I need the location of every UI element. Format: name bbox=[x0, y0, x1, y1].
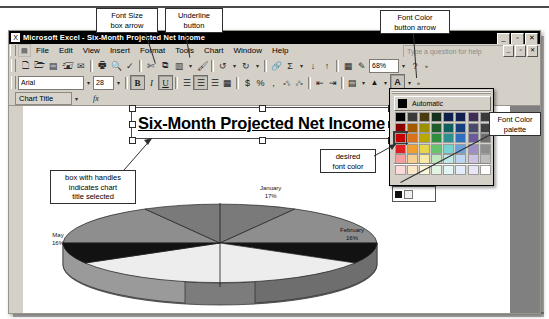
palette-color-cell[interactable] bbox=[419, 123, 430, 133]
palette-color-cell[interactable] bbox=[395, 165, 406, 175]
standard-toolbar-grip[interactable] bbox=[11, 59, 16, 72]
palette-color-cell[interactable] bbox=[431, 133, 442, 143]
name-box[interactable]: Chart Title bbox=[15, 92, 72, 105]
autosum-dropdown-icon[interactable]: ▾ bbox=[297, 60, 306, 72]
paste-icon[interactable]: ▥ bbox=[172, 59, 186, 73]
bold-button[interactable]: B bbox=[130, 75, 145, 90]
decrease-indent-button[interactable]: ⇤ bbox=[313, 76, 326, 89]
chart-legend[interactable] bbox=[392, 186, 436, 202]
doc-minimize-button[interactable]: _ bbox=[503, 45, 514, 57]
spelling-icon[interactable]: ✓ bbox=[123, 59, 137, 73]
redo-dropdown-icon[interactable]: ▾ bbox=[253, 60, 262, 72]
restore-button[interactable]: ▫ bbox=[511, 33, 524, 45]
save-icon[interactable]: ▤ bbox=[46, 59, 60, 73]
menu-item-file[interactable]: File bbox=[31, 46, 54, 55]
doc-close-button[interactable]: ✕ bbox=[527, 45, 538, 57]
increase-indent-button[interactable]: ⇥ bbox=[326, 76, 339, 89]
zoom-dropdown-icon[interactable]: ▾ bbox=[399, 60, 408, 72]
currency-button[interactable]: $ bbox=[241, 76, 254, 89]
paste-options-dropdown-icon[interactable]: ▾ bbox=[186, 60, 195, 72]
open-icon[interactable]: 🗁 bbox=[32, 59, 46, 73]
redo-icon[interactable]: ↻ bbox=[239, 59, 253, 73]
font-size-combobox[interactable]: 28 bbox=[93, 76, 114, 90]
sort-descending-icon[interactable]: ↑ bbox=[320, 59, 334, 73]
palette-color-cell[interactable] bbox=[419, 144, 430, 154]
permission-icon[interactable]: 🖅 bbox=[60, 59, 74, 73]
zoom-combobox[interactable]: 68% bbox=[369, 59, 399, 73]
font-color-palette[interactable]: Automatic Red bbox=[389, 88, 494, 186]
palette-color-cell[interactable] bbox=[480, 165, 491, 175]
align-right-button[interactable]: ☰ bbox=[208, 76, 221, 89]
resize-handle-n[interactable] bbox=[259, 105, 266, 112]
fill-color-button[interactable]: ▲ bbox=[368, 76, 381, 89]
formatting-toolbar-grip[interactable] bbox=[11, 76, 16, 89]
close-button[interactable]: ✕ bbox=[525, 33, 538, 45]
percent-button[interactable]: % bbox=[254, 76, 267, 89]
chart-title-selection-box[interactable]: Six-Month Projected Net Income bbox=[131, 107, 392, 139]
print-preview-icon[interactable]: 🔍 bbox=[109, 59, 123, 73]
copy-icon[interactable]: ⧉ bbox=[158, 59, 172, 73]
hyperlink-icon[interactable]: 🔗 bbox=[269, 59, 283, 73]
standard-toolbar-overflow-icon[interactable]: » bbox=[422, 60, 431, 72]
palette-color-cell[interactable] bbox=[395, 123, 406, 133]
palette-drag-grip[interactable] bbox=[392, 90, 491, 94]
palette-color-cell[interactable] bbox=[468, 112, 479, 122]
italic-button[interactable]: I bbox=[145, 76, 158, 89]
menu-item-tools[interactable]: Tools bbox=[170, 46, 199, 55]
palette-color-cell[interactable] bbox=[443, 123, 454, 133]
palette-color-cell[interactable] bbox=[431, 144, 442, 154]
palette-color-cell[interactable] bbox=[455, 165, 466, 175]
palette-color-cell[interactable] bbox=[407, 112, 418, 122]
underline-button[interactable]: U bbox=[158, 75, 173, 90]
align-left-button[interactable]: ☰ bbox=[180, 76, 193, 89]
document-control-icon[interactable]: ▤ bbox=[18, 44, 31, 57]
menu-item-view[interactable]: View bbox=[78, 46, 105, 55]
palette-color-cell[interactable] bbox=[468, 123, 479, 133]
undo-dropdown-icon[interactable]: ▾ bbox=[230, 60, 239, 72]
palette-color-cell[interactable] bbox=[455, 133, 466, 143]
palette-color-cell[interactable] bbox=[455, 123, 466, 133]
palette-color-cell[interactable] bbox=[431, 165, 442, 175]
font-name-dropdown-icon[interactable]: ▾ bbox=[84, 77, 93, 89]
palette-color-cell[interactable] bbox=[407, 123, 418, 133]
palette-automatic-button[interactable]: Automatic bbox=[394, 96, 491, 111]
resize-handle-s[interactable] bbox=[259, 137, 266, 144]
menu-item-edit[interactable]: Edit bbox=[54, 46, 78, 55]
chart-wizard-icon[interactable]: ▦ bbox=[341, 59, 355, 73]
minimize-button[interactable]: _ bbox=[497, 33, 510, 45]
comma-button[interactable]: , bbox=[267, 76, 280, 89]
name-box-dropdown-icon[interactable]: ▾ bbox=[72, 92, 81, 104]
pie-chart[interactable]: June 20% January 17% February 16% May 16… bbox=[55, 195, 385, 310]
palette-color-cell[interactable] bbox=[419, 112, 430, 122]
insert-function-icon[interactable]: fx bbox=[93, 94, 99, 103]
palette-color-cell[interactable] bbox=[443, 165, 454, 175]
new-icon[interactable]: 🗋 bbox=[18, 59, 32, 73]
menu-item-help[interactable]: Help bbox=[267, 46, 293, 55]
menu-item-insert[interactable]: Insert bbox=[105, 46, 135, 55]
fill-color-dropdown-icon[interactable]: ▾ bbox=[381, 77, 390, 89]
font-color-button-arrow-icon[interactable]: ▾ bbox=[405, 77, 414, 89]
palette-color-cell[interactable] bbox=[443, 144, 454, 154]
palette-color-cell[interactable] bbox=[419, 133, 430, 143]
palette-color-cell[interactable] bbox=[480, 144, 491, 154]
drawing-icon[interactable]: ✎ bbox=[355, 59, 369, 73]
font-name-combobox[interactable]: Arial bbox=[18, 76, 84, 90]
palette-color-cell[interactable] bbox=[395, 112, 406, 122]
palette-color-cell[interactable] bbox=[443, 133, 454, 143]
borders-button[interactable]: ▤ bbox=[346, 76, 359, 89]
doc-restore-button[interactable]: ▫ bbox=[515, 45, 526, 57]
sort-ascending-icon[interactable]: ↓ bbox=[306, 59, 320, 73]
autosum-icon[interactable]: Σ bbox=[283, 59, 297, 73]
borders-dropdown-icon[interactable]: ▾ bbox=[359, 77, 368, 89]
format-painter-icon[interactable]: 🖌 bbox=[195, 59, 209, 73]
print-icon[interactable]: 🖶 bbox=[95, 59, 109, 73]
font-size-box-arrow-icon[interactable]: ▾ bbox=[114, 77, 123, 89]
palette-color-cell[interactable] bbox=[431, 112, 442, 122]
email-icon[interactable]: ✉ bbox=[74, 59, 88, 73]
palette-color-cell[interactable] bbox=[443, 112, 454, 122]
palette-color-cell[interactable] bbox=[407, 144, 418, 154]
merge-and-center-button[interactable]: ▦ bbox=[221, 76, 234, 89]
menu-item-chart[interactable]: Chart bbox=[199, 46, 229, 55]
resize-handle-w[interactable] bbox=[129, 121, 136, 128]
undo-icon[interactable]: ↺ bbox=[216, 59, 230, 73]
